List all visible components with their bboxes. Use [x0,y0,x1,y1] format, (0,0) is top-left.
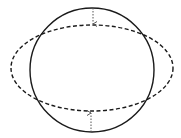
deformation-diagram [0,0,181,138]
deformed-ellipse [11,25,173,111]
original-circle [30,8,154,132]
